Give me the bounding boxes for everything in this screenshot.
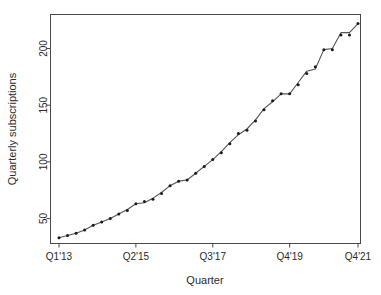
data-point [66,234,69,237]
data-point [211,158,214,161]
data-point [280,92,283,95]
data-point [322,48,325,51]
data-point [305,72,308,75]
data-point [117,213,120,216]
data-point [245,129,248,132]
quarterly-subscriptions-chart: 50100150200 Q1'13Q2'15Q3'17Q4'19Q4'21 Qu… [0,0,381,295]
x-tick-label: Q4'19 [276,251,303,262]
data-point [151,198,154,201]
y-axis-title: Quarterly subscriptions [6,72,18,185]
data-point [220,151,223,154]
data-point [254,120,257,123]
data-point [58,236,61,239]
x-tick-label: Q4'21 [345,251,372,262]
data-point [160,192,163,195]
y-tick-label: 50 [38,213,49,225]
data-point [126,209,129,212]
x-tick-label: Q3'17 [200,251,227,262]
data-point [75,232,78,235]
data-point [237,132,240,135]
y-tick-label: 100 [38,153,49,170]
x-tick-label: Q1'13 [46,251,73,262]
x-tick-label: Q2'15 [123,251,150,262]
data-point [203,165,206,168]
data-point [357,22,360,25]
data-point [263,108,266,111]
data-point [297,83,300,86]
data-point [109,217,112,220]
data-point [186,179,189,182]
data-point [143,200,146,203]
data-point [271,99,274,102]
data-point [314,65,317,68]
y-tick-label: 200 [38,40,49,57]
data-point [228,142,231,145]
data-point [194,172,197,175]
data-point [339,33,342,36]
chart-container: 50100150200 Q1'13Q2'15Q3'17Q4'19Q4'21 Qu… [0,0,381,295]
data-point [177,180,180,183]
x-axis-title: Quarter [186,274,224,286]
data-point [134,202,137,205]
data-point [288,92,291,95]
y-tick-label: 150 [38,96,49,113]
data-point [83,228,86,231]
data-point [331,48,334,51]
data-point [100,220,103,223]
data-point [169,184,172,187]
data-point [92,224,95,227]
data-point [348,33,351,36]
